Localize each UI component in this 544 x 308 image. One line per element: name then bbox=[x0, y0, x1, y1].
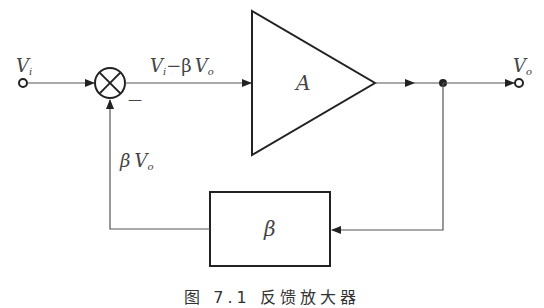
amplifier-block bbox=[252, 11, 375, 155]
amp-output-arrow-icon bbox=[405, 79, 415, 87]
error-signal-label: Vi−βVo bbox=[150, 55, 214, 77]
summing-junction bbox=[95, 68, 125, 98]
amplifier-label: A bbox=[294, 71, 310, 95]
feedback-sense-wire bbox=[332, 83, 443, 230]
feedback-block-label: β bbox=[263, 217, 276, 241]
figure-caption: 图 7.1 反馈放大器 bbox=[0, 284, 544, 308]
feedback-signal-label: βVo bbox=[119, 150, 153, 172]
output-label: Vo bbox=[513, 55, 532, 77]
summer-minus-sign: — bbox=[128, 91, 142, 107]
input-label: Vi bbox=[16, 55, 32, 77]
input-terminal bbox=[19, 79, 27, 87]
output-terminal bbox=[515, 79, 523, 87]
